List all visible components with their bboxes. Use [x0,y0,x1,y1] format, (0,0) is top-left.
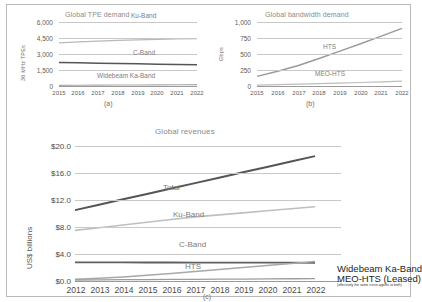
panel-label-a: (a) [104,100,113,107]
x-tick-rev-2019: 2019 [231,285,257,295]
x-tick-tpe-2016: 2016 [68,90,88,96]
gridline-tpe-6000 [59,22,197,23]
y-tick-tpe-0: 0 [21,83,53,90]
y-tick-rev-16: $16.0 [31,169,71,178]
series-label-meo-hts-bandwidth: MEO-HTS [315,70,345,77]
x-tick-bw-2022: 2022 [392,90,412,96]
annotation-footnote: (effectively the same curve applies to b… [337,283,402,287]
x-tick-tpe-2020: 2020 [147,90,167,96]
x-tick-bw-2020: 2020 [351,90,371,96]
x-tick-bw-2021: 2021 [371,90,391,96]
series-line-total-revenues [75,156,315,210]
y-tick-rev-4: $4.0 [31,250,71,259]
y-tick-rev-12: $12.0 [31,196,71,205]
y-tick-bw-750: 750 [221,35,251,42]
gridline-tpe-4500 [59,38,197,39]
x-tick-tpe-2015: 2015 [49,90,69,96]
series-line-ku-band-tpe [59,39,197,43]
figure-frame: Global TPE demand 36 MHz TPEs 6,000 4,50… [6,4,411,297]
y-tick-bw-1000: 1,000 [221,19,251,26]
gridline-rev-12 [75,200,341,201]
series-label-hts-bandwidth: HTS [323,43,336,50]
gridline-tpe-1500 [59,70,197,71]
x-tick-tpe-2019: 2019 [128,90,148,96]
axis-line-rev-0 [75,281,341,282]
panel-label-c: (c) [203,293,211,300]
gridline-rev-16 [75,173,341,174]
series-label-hts-revenues: HTS [185,262,201,271]
y-tick-bw-0: 0 [221,83,251,90]
x-tick-bw-2015: 2015 [247,90,267,96]
x-tick-tpe-2021: 2021 [167,90,187,96]
axis-line-bw-0 [257,86,402,87]
x-tick-rev-2013: 2013 [87,285,113,295]
x-tick-rev-2020: 2020 [255,285,281,295]
plot-area-bandwidth: HTS MEO-HTS [257,22,402,86]
x-tick-bw-2019: 2019 [330,90,350,96]
chart-title-bandwidth: Global bandwidth demand [265,11,349,18]
x-tick-bw-2017: 2017 [289,90,309,96]
x-tick-tpe-2018: 2018 [108,90,128,96]
y-tick-rev-8: $8.0 [31,223,71,232]
y-tick-bw-500: 500 [221,51,251,58]
series-line-c-band-tpe [59,63,197,65]
gridline-bw-1000 [257,22,402,23]
axis-line-tpe-0 [59,86,197,87]
x-tick-rev-2014: 2014 [111,285,137,295]
series-label-ku-band-tpe: Ku-Band [131,12,156,19]
panel-tpe-demand: Global TPE demand 36 MHz TPEs 6,000 4,50… [7,5,203,113]
gridline-rev-8 [75,227,341,228]
gridline-rev-4 [75,254,341,255]
y-tick-tpe-3000: 3,000 [21,51,53,58]
series-lines-revenues [75,146,341,281]
x-tick-bw-2018: 2018 [309,90,329,96]
x-tick-bw-2016: 2016 [268,90,288,96]
series-label-widebeam-ka-band-tpe: Widebeam Ka-Band [97,72,155,79]
plot-area-revenues: Total Ku-Band C-Band HTS [75,146,341,281]
series-label-total-revenues: Total [163,183,180,192]
x-tick-rev-2022: 2022 [303,285,329,295]
x-tick-rev-2012: 2012 [63,285,89,295]
y-tick-tpe-4500: 4,500 [21,35,53,42]
gridline-tpe-3000 [59,54,197,55]
x-tick-rev-2021: 2021 [279,285,305,295]
panel-bandwidth-demand: Global bandwidth demand Gbps 1,000 750 5… [205,5,411,113]
x-tick-rev-2015: 2015 [135,285,161,295]
gridline-bw-750 [257,38,402,39]
x-tick-tpe-2022: 2022 [187,90,207,96]
series-label-c-band-revenues: C-Band [179,240,206,249]
x-tick-rev-2016: 2016 [159,285,185,295]
plot-area-tpe: Ku-Band C-Band Widebeam Ka-Band [59,22,197,86]
panel-label-b: (b) [306,100,315,107]
y-tick-bw-250: 250 [221,67,251,74]
series-label-ku-band-revenues: Ku-Band [173,210,204,219]
y-tick-rev-20: $20.0 [31,142,71,151]
y-tick-tpe-1500: 1,500 [21,67,53,74]
y-tick-tpe-6000: 6,000 [21,19,53,26]
x-tick-tpe-2017: 2017 [88,90,108,96]
gridline-bw-500 [257,54,402,55]
chart-title-tpe: Global TPE demand [65,11,130,18]
gridline-rev-20 [75,146,341,147]
chart-title-revenues: Global revenues [155,127,215,136]
y-axis-label-revenues: US$ billions [25,227,34,269]
series-label-c-band-tpe: C-Band [133,49,155,56]
series-line-widebeam-ka-band-revenues [75,279,315,280]
series-line-meo-hts-bandwidth [257,81,402,85]
